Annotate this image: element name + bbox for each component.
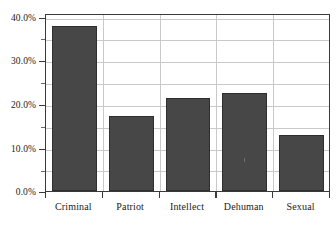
y-tick-label-10: 10.0% <box>11 144 36 154</box>
x-tick-label-dehuman: Dehuman <box>224 201 264 212</box>
x-tick-4 <box>272 192 273 198</box>
x-tick-1 <box>102 192 103 198</box>
x-tick-label-patriot: Patriot <box>116 201 144 212</box>
x-tick-label-sexual: Sexual <box>287 201 315 212</box>
x-tick-2 <box>159 192 160 198</box>
x-tick-label-intellect: Intellect <box>170 201 204 212</box>
bar-chart: 40.0% 30.0% 20.0% 10.0% 0.0% <box>0 0 336 230</box>
x-axis: Criminal Patriot Intellect Dehuman Sexua… <box>45 201 330 223</box>
x-tick-3 <box>215 192 216 198</box>
print-speck <box>244 158 245 162</box>
bar-dehuman[interactable] <box>222 93 267 191</box>
y-tick-label-40: 40.0% <box>11 13 36 23</box>
y-tick-label-30: 30.0% <box>11 56 36 66</box>
bar-sexual[interactable] <box>279 135 324 191</box>
plot-area <box>45 14 330 192</box>
y-tick-label-20: 20.0% <box>11 100 36 110</box>
bar-intellect[interactable] <box>166 98 211 191</box>
x-tick-5 <box>329 192 330 198</box>
bar-criminal[interactable] <box>52 26 97 191</box>
x-tick-0 <box>45 192 46 198</box>
x-tick-label-criminal: Criminal <box>55 201 92 212</box>
y-tick-label-0: 0.0% <box>16 187 36 197</box>
bars-layer <box>46 15 329 191</box>
bar-patriot[interactable] <box>109 116 154 191</box>
y-axis: 40.0% 30.0% 20.0% 10.0% 0.0% <box>0 0 42 230</box>
